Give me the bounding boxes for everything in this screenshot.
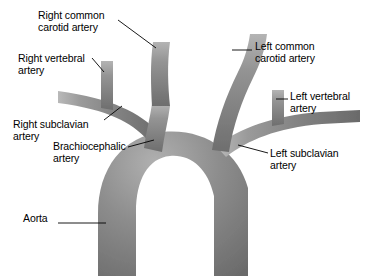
- label-right-vertebral-artery: Right vertebral artery: [18, 52, 85, 76]
- label-left-vertebral-artery: Left vertebral artery: [290, 90, 350, 114]
- label-left-subclavian-artery: Left subclavian artery: [270, 147, 339, 171]
- aortic-arch-diagram: Right common carotid artery Right verteb…: [0, 0, 373, 276]
- leader-right-common-carotid: [118, 20, 156, 48]
- label-brachiocephalic-artery: Brachiocephalic artery: [53, 140, 126, 164]
- label-right-common-carotid-artery: Right common carotid artery: [38, 9, 105, 33]
- leader-left-subclavian: [238, 145, 268, 153]
- right-common-carotid-vessel: [151, 42, 170, 106]
- left-vertebral-vessel: [272, 90, 284, 126]
- label-left-common-carotid-artery: Left common carotid artery: [255, 40, 315, 64]
- label-right-subclavian-artery: Right subclavian artery: [13, 118, 88, 142]
- label-aorta: Aorta: [23, 212, 48, 224]
- right-vertebral-vessel: [101, 61, 113, 110]
